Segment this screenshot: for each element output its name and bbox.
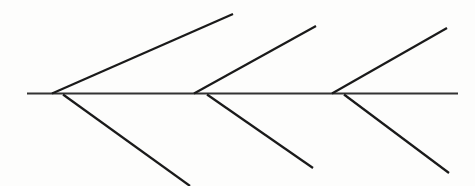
fishbone-diagram-svg bbox=[0, 0, 475, 186]
fishbone-diagram-canvas bbox=[0, 0, 475, 186]
